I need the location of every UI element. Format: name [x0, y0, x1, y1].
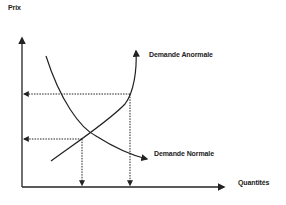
curve-demande-anormale — [51, 51, 136, 161]
label-demande-anormale: Demande Anormale — [149, 51, 213, 58]
curve-demande-normale — [46, 56, 147, 159]
label-demande-normale: Demande Normale — [154, 150, 214, 157]
demand-diagram — [0, 0, 286, 205]
x-axis-label: Quantités — [238, 179, 269, 186]
y-axis-label: Prix — [8, 4, 21, 11]
